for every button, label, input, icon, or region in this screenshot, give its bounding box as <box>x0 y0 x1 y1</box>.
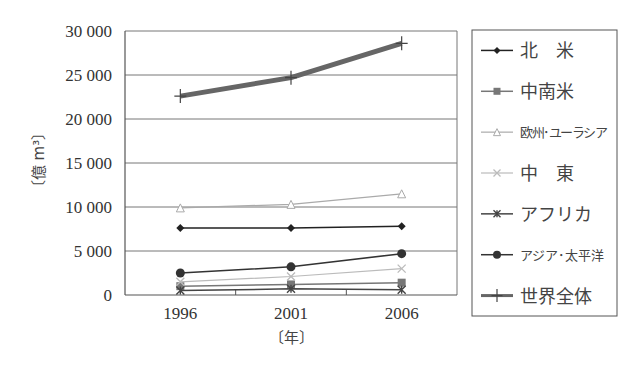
square-marker <box>494 88 501 95</box>
circle-marker <box>493 251 501 259</box>
x-axis-ticks: 199620012006 <box>163 304 418 323</box>
legend-label: 欧州･ユーラシア <box>520 125 608 140</box>
legend-label: アジア･太平洋 <box>520 248 604 263</box>
y-tick-label: 5 000 <box>74 242 112 261</box>
y-tick-label: 20 000 <box>65 110 112 129</box>
line-chart: 05 00010 00015 00020 00025 00030 000 199… <box>0 0 639 373</box>
legend-label: 中南米 <box>520 81 574 102</box>
series-6 <box>174 36 407 103</box>
y-tick-label: 30 000 <box>65 22 112 41</box>
circle-marker <box>287 262 296 271</box>
series-5 <box>176 249 406 277</box>
series-2 <box>176 190 405 212</box>
x-tick-label: 2001 <box>274 304 308 323</box>
y-tick-label: 0 <box>104 286 113 305</box>
legend-label: 北 米 <box>520 40 574 61</box>
x-axis-label: 〔年〕 <box>269 329 314 347</box>
series-line <box>180 43 401 96</box>
legend: 北 米中南米欧州･ユーラシア中 東アフリカアジア･太平洋世界全体 <box>472 30 617 316</box>
diamond-marker <box>398 222 406 230</box>
legend-label: アフリカ <box>520 204 592 225</box>
diamond-marker <box>176 224 184 232</box>
y-tick-label: 10 000 <box>65 198 112 217</box>
y-tick-label: 25 000 <box>65 66 112 85</box>
legend-label: 中 東 <box>520 163 574 184</box>
gridlines <box>125 31 457 251</box>
plus-marker <box>396 36 408 50</box>
series-0 <box>176 222 405 232</box>
plus-marker <box>285 71 297 85</box>
diamond-marker <box>287 224 295 232</box>
y-axis-label: 〔億 m³〕 <box>30 125 48 195</box>
y-tick-label: 15 000 <box>65 154 112 173</box>
legend-label: 世界全体 <box>520 286 592 307</box>
circle-marker <box>176 269 185 278</box>
x-tick-label: 2006 <box>385 304 419 323</box>
y-axis-ticks: 05 00010 00015 00020 00025 00030 000 <box>65 22 112 305</box>
square-marker <box>398 279 406 287</box>
circle-marker <box>397 249 406 258</box>
x-tick-label: 1996 <box>163 304 197 323</box>
plus-marker <box>174 89 186 103</box>
